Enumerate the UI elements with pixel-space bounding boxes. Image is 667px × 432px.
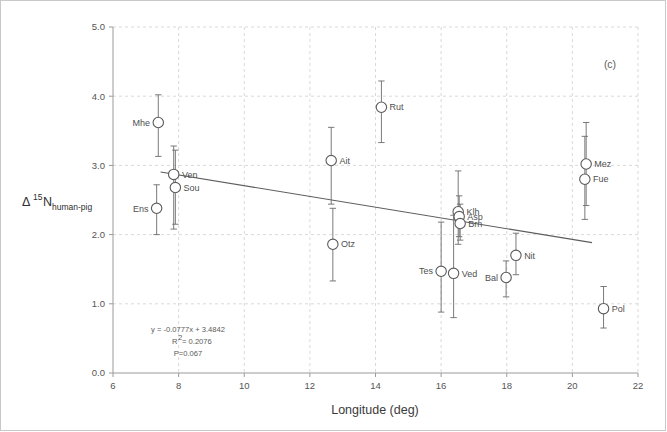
data-point-marker [169,169,179,179]
data-point-label: Fue [593,174,609,184]
x-tick-label: 18 [501,380,512,391]
y-axis-title-superscript: 15 [33,192,43,202]
data-point-marker [511,250,521,260]
y-tick-label: 2.0 [92,229,105,240]
scatter-plot: 6810121416182022 0.01.02.03.04.05.0 MheV… [0,0,667,432]
x-tick-label: 12 [305,380,316,391]
figure-panel-c: 6810121416182022 0.01.02.03.04.05.0 MheV… [0,0,667,432]
data-point-label: Rut [390,102,405,112]
x-tick-label: 20 [567,380,578,391]
x-tick-label: 10 [239,380,250,391]
data-point-label: Mhe [133,118,151,128]
y-axis-title-element: N [43,195,52,209]
y-tick-label: 1.0 [92,298,105,309]
data-point-marker [376,102,386,112]
r-squared-value: = 0.2076 [182,337,212,346]
regression-equation: y = -0.0777x + 3.4842 [151,325,225,334]
p-value: P=0.067 [174,349,203,358]
data-point-marker [455,218,465,228]
x-axis-ticks: 6810121416182022 [110,373,643,391]
data-point-label: Tes [419,266,434,276]
data-point-marker [153,117,163,127]
x-tick-label: 22 [633,380,644,391]
data-point-marker [151,203,161,213]
error-bars [153,81,606,328]
data-point-label: Otz [341,239,356,249]
x-tick-label: 6 [110,380,115,391]
data-point-marker [326,155,336,165]
x-tick-label: 8 [176,380,181,391]
regression-annotation: y = -0.0777x + 3.4842 R 2 = 0.2076 P=0.0… [151,325,225,358]
y-axis-title-subscript: human-pig [52,202,92,212]
panel-label: (c) [604,58,616,70]
data-point-label: Mez [594,159,612,169]
regression-line [161,172,592,243]
data-point-marker [436,266,446,276]
data-point-label: Ens [133,204,149,214]
data-point-marker [581,159,591,169]
error-bar [450,215,456,317]
y-tick-label: 4.0 [92,91,105,102]
y-tick-label: 5.0 [92,21,105,32]
x-tick-label: 16 [436,380,447,391]
data-point-marker [580,174,590,184]
data-point-label: Ait [339,156,350,166]
data-point-marker [170,182,180,192]
data-point-label: Sou [184,183,200,193]
data-point-marker [501,272,511,282]
gridlines [113,27,638,373]
data-point-label: Nit [524,251,535,261]
data-point-label: Brn [468,219,482,229]
data-point-label: Ven [182,170,198,180]
data-point-marker [598,303,608,313]
data-point-marker [328,239,338,249]
data-point-label: Ved [462,269,478,279]
data-point-label: Pol [612,304,625,314]
regression-trend-line [161,172,592,243]
y-axis-title-delta: Δ [22,195,30,209]
y-axis-ticks: 0.01.02.03.04.05.0 [92,21,113,378]
data-point-marker [448,268,458,278]
y-axis-title: Δ 15 N human-pig [22,192,92,212]
y-tick-label: 3.0 [92,160,105,171]
x-tick-label: 14 [370,380,381,391]
y-tick-label: 0.0 [92,367,105,378]
x-axis-title: Longitude (deg) [331,403,419,417]
data-point-label: Bal [485,273,498,283]
